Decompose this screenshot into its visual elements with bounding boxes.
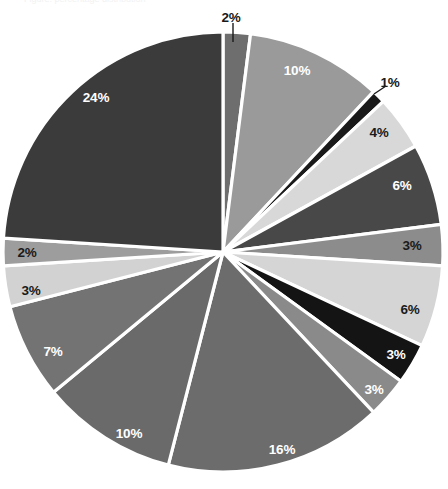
cropped-caption-remnant: Figure: percentage distribution: [24, 0, 146, 4]
slice-percentage-label: 6%: [392, 178, 411, 193]
pie-slice[interactable]: [3, 32, 223, 252]
slice-percentage-label: 7%: [43, 344, 62, 359]
slice-percentage-label: 2%: [17, 245, 36, 260]
slice-percentage-label: 3%: [21, 283, 40, 298]
slice-percentage-label: 1%: [380, 75, 399, 90]
slice-percentage-label: 3%: [364, 382, 383, 397]
slice-percentage-label: 6%: [400, 302, 419, 317]
slice-percentage-label: 3%: [402, 238, 421, 253]
pie-chart-figure: Figure: percentage distribution 2%10%1%4…: [0, 0, 448, 489]
slice-percentage-label: 10%: [284, 63, 311, 78]
slice-percentage-label: 10%: [116, 426, 143, 441]
slice-percentage-label: 24%: [83, 90, 110, 105]
pie-chart-canvas: 2%10%1%4%6%3%6%3%3%16%10%7%3%2%24%: [0, 0, 448, 489]
slice-percentage-label: 2%: [221, 10, 240, 25]
slice-percentage-label: 3%: [386, 347, 405, 362]
slice-percentage-label: 16%: [269, 442, 296, 457]
slice-percentage-label: 4%: [369, 125, 388, 140]
